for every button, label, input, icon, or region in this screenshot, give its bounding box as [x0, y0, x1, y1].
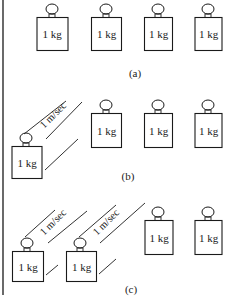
velocity-label: 1 m/sec	[38, 100, 69, 131]
panel-c: 1 m/sec 1 kg 1 m/sec 1 kg 1 kg 1 kg	[13, 203, 223, 296]
weight-b1-moving: 1 m/sec 1 kg	[12, 100, 82, 179]
weight-label: 1 kg	[199, 28, 219, 40]
weight-label: 1 kg	[199, 125, 219, 137]
weight-a2: 1 kg	[92, 4, 122, 51]
weight-label: 1 kg	[18, 261, 38, 273]
weight-label: 1 kg	[199, 232, 219, 244]
velocity-label: 1 m/sec	[91, 207, 122, 238]
momentum-weights-diagram: 1 kg 1 kg 1 kg 1 kg (a) 1 m/sec	[0, 0, 226, 299]
weight-c3: 1 kg	[145, 207, 173, 255]
panel-label-c: (c)	[125, 283, 138, 296]
motion-line	[46, 265, 58, 275]
weight-label: 1 kg	[42, 28, 62, 40]
weight-label: 1 kg	[149, 232, 169, 244]
weight-a4: 1 kg	[195, 4, 222, 51]
motion-line	[45, 139, 78, 170]
weight-a3: 1 kg	[145, 4, 173, 51]
weight-label: 1 kg	[149, 125, 169, 137]
weight-label: 1 kg	[97, 125, 117, 137]
weight-label: 1 kg	[17, 157, 37, 169]
weight-c2-moving: 1 m/sec 1 kg	[67, 203, 146, 282]
weight-b2: 1 kg	[92, 100, 122, 148]
motion-line	[99, 259, 116, 274]
weight-b3: 1 kg	[145, 100, 173, 148]
weight-label: 1 kg	[149, 28, 169, 40]
weight-label: 1 kg	[72, 261, 92, 273]
panel-label-b: (b)	[122, 170, 135, 183]
weight-label: 1 kg	[97, 28, 117, 40]
panel-b: 1 m/sec 1 kg 1 kg 1 kg 1 kg (b)	[12, 100, 222, 183]
weight-c4: 1 kg	[195, 207, 222, 255]
panel-label-a: (a)	[129, 67, 142, 80]
weight-b4: 1 kg	[195, 100, 222, 148]
weight-a1: 1 kg	[37, 4, 68, 51]
panel-a: 1 kg 1 kg 1 kg 1 kg (a)	[37, 4, 222, 80]
